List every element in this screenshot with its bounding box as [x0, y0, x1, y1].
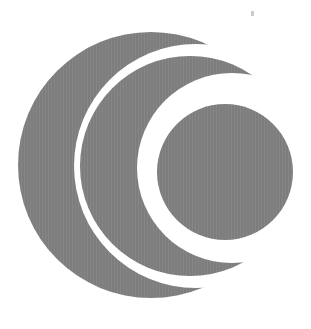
logo-graphic: [0, 0, 311, 329]
dust-speck: [251, 11, 254, 16]
inner-disk: [157, 104, 293, 240]
logo-canvas: [0, 0, 311, 329]
